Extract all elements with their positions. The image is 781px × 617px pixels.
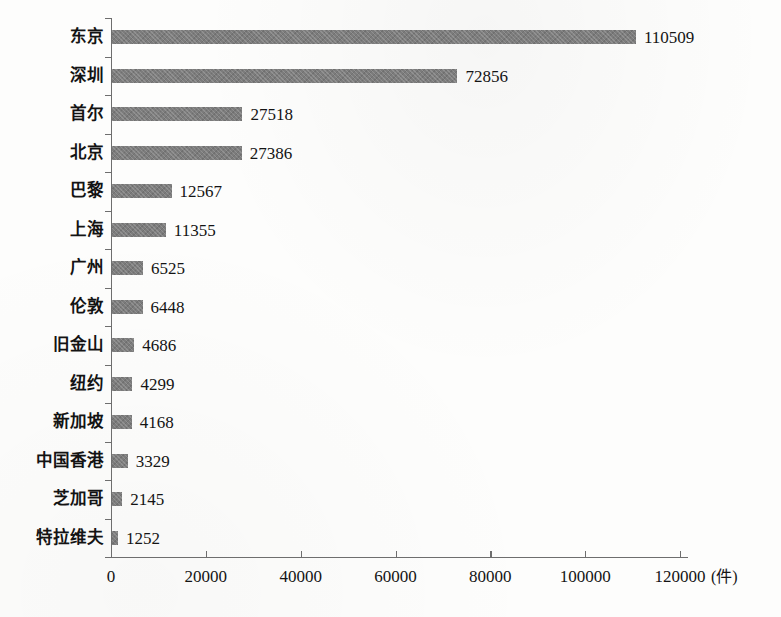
bar [112, 146, 242, 160]
x-axis-tick-label: 100000 [560, 568, 611, 585]
x-axis-tick [301, 551, 302, 557]
category-label: 东京 [0, 29, 104, 46]
bar-value-label: 4686 [142, 337, 176, 354]
y-axis-tick [105, 403, 111, 404]
horizontal-bar-chart: 东京深圳首尔北京巴黎上海广州伦敦旧金山纽约新加坡中国香港芝加哥特拉维夫 1105… [0, 0, 781, 617]
x-axis-tick-label: 60000 [374, 568, 417, 585]
bar-value-label: 6448 [151, 298, 185, 315]
bar-value-label: 4299 [140, 375, 174, 392]
bar [112, 184, 172, 198]
bar-value-label: 27518 [250, 106, 293, 123]
category-label: 纽约 [0, 376, 104, 393]
bar-value-label: 12567 [180, 183, 223, 200]
bar [112, 223, 166, 237]
bar [112, 30, 636, 44]
x-axis-tick [490, 551, 491, 557]
y-axis-tick [105, 211, 111, 212]
bar [112, 69, 457, 83]
bar-value-label: 6525 [151, 260, 185, 277]
y-axis-tick [105, 288, 111, 289]
category-label: 芝加哥 [0, 491, 104, 508]
bar [112, 107, 242, 121]
bar-value-label: 72856 [465, 67, 508, 84]
x-axis-tick-label: 120000 [655, 568, 706, 585]
x-axis-tick [206, 551, 207, 557]
x-axis-tick [111, 551, 112, 557]
x-axis-tick [680, 551, 681, 557]
x-axis-tick-label: 40000 [279, 568, 322, 585]
category-label: 新加坡 [0, 414, 104, 431]
x-axis-tick-label: 80000 [469, 568, 512, 585]
y-axis-tick [105, 18, 111, 19]
category-label: 北京 [0, 145, 104, 162]
bar-value-label: 1252 [126, 529, 160, 546]
category-label: 中国香港 [0, 453, 104, 470]
bar-value-label: 3329 [136, 452, 170, 469]
y-axis-tick [105, 365, 111, 366]
category-label: 特拉维夫 [0, 530, 104, 547]
category-label: 伦敦 [0, 299, 104, 316]
y-axis-tick [105, 57, 111, 58]
x-axis-tick [396, 551, 397, 557]
y-axis-tick [105, 442, 111, 443]
y-axis-tick [105, 95, 111, 96]
category-label: 首尔 [0, 106, 104, 123]
bar [112, 377, 132, 391]
bar-value-label: 2145 [130, 491, 164, 508]
bar-value-label: 110509 [644, 29, 694, 46]
bar-value-label: 27386 [250, 144, 293, 161]
category-label: 深圳 [0, 68, 104, 85]
y-axis-tick [105, 480, 111, 481]
bar [112, 261, 143, 275]
category-label: 广州 [0, 260, 104, 277]
x-axis-unit-label: (件) [711, 569, 738, 585]
x-axis-line [111, 557, 688, 558]
bar [112, 531, 118, 545]
category-label: 旧金山 [0, 337, 104, 354]
bar-value-label: 11355 [174, 221, 216, 238]
y-axis-tick [105, 134, 111, 135]
y-axis-tick [105, 557, 111, 558]
bar [112, 300, 143, 314]
y-axis-tick [105, 249, 111, 250]
y-axis-tick [105, 172, 111, 173]
x-axis-tick [585, 551, 586, 557]
bar [112, 454, 128, 468]
y-axis-tick [105, 519, 111, 520]
y-axis-line [111, 18, 112, 557]
bar-value-label: 4168 [140, 414, 174, 431]
bar [112, 492, 122, 506]
x-axis-tick-label: 20000 [185, 568, 228, 585]
category-label: 巴黎 [0, 183, 104, 200]
bar [112, 338, 134, 352]
x-axis-tick-label: 0 [107, 568, 116, 585]
y-axis-tick [105, 326, 111, 327]
bar [112, 415, 132, 429]
category-label: 上海 [0, 222, 104, 239]
